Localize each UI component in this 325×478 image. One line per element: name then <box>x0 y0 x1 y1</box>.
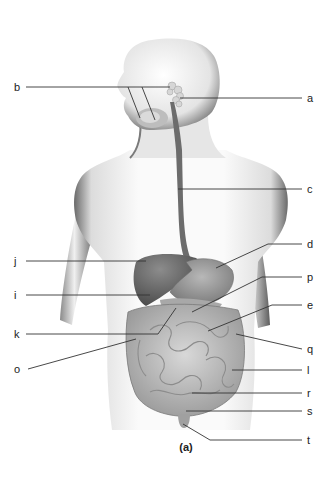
large-intestine <box>126 304 245 416</box>
label-k: k <box>14 329 20 340</box>
label-b: b <box>14 82 20 93</box>
label-l: l <box>307 365 309 376</box>
label-o: o <box>14 364 20 375</box>
label-s: s <box>307 406 313 417</box>
digestive-system-diagram: abcdjpiekqolrst (a) <box>0 0 325 478</box>
label-c: c <box>307 184 313 195</box>
figure-caption: (a) <box>179 441 192 453</box>
label-p: p <box>307 272 313 283</box>
label-t: t <box>307 435 310 446</box>
label-e: e <box>307 300 313 311</box>
label-q: q <box>307 344 313 355</box>
label-a: a <box>307 93 313 104</box>
label-r: r <box>307 388 311 399</box>
label-j: j <box>14 256 16 267</box>
label-d: d <box>307 239 313 250</box>
label-i: i <box>14 290 16 301</box>
anatomy-illustration <box>0 0 325 478</box>
